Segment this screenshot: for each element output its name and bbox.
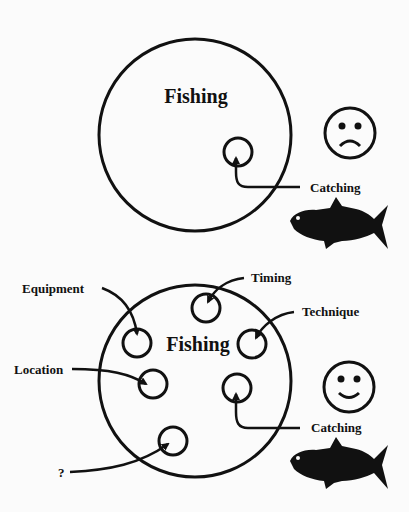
equipment-arrow xyxy=(102,288,137,334)
equipment-label: Equipment xyxy=(22,281,85,296)
unknown-circle xyxy=(159,427,187,455)
timing-circle xyxy=(192,294,220,322)
catching-label: Catching xyxy=(310,180,361,195)
technique-circle xyxy=(238,330,266,358)
technique-label: Technique xyxy=(302,304,360,319)
location-arrow xyxy=(72,369,146,384)
panel-bottom: Fishing Equipment Timing Technique Locat… xyxy=(14,270,388,489)
catching-label: Catching xyxy=(311,420,362,435)
fishing-title: Fishing xyxy=(164,85,227,108)
panel-top: Fishing Catching xyxy=(99,39,388,249)
happy-face-icon xyxy=(324,362,374,412)
fishing-circle xyxy=(99,285,291,477)
catching-circle xyxy=(224,138,252,166)
sad-face-icon xyxy=(325,108,375,158)
unknown-label: ? xyxy=(58,465,65,480)
location-circle xyxy=(139,370,167,398)
fishing-circle xyxy=(99,39,291,231)
timing-label: Timing xyxy=(251,270,292,285)
location-label: Location xyxy=(14,362,64,377)
fish-icon xyxy=(290,197,388,249)
fish-icon xyxy=(290,437,388,489)
fishing-title: Fishing xyxy=(166,333,229,356)
fishing-diagram: Fishing Catching Fishing Equipment Timin… xyxy=(0,0,409,512)
